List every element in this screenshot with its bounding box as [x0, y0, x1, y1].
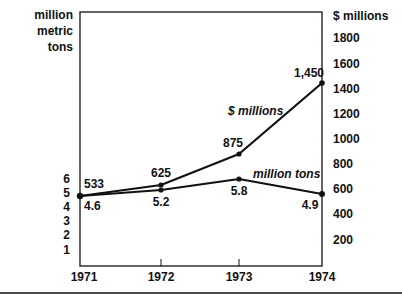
left-tick: 5 — [63, 186, 70, 200]
left-tick: 6 — [63, 172, 70, 186]
left-tick: 3 — [63, 214, 70, 228]
data-label-dollars-1971: 533 — [84, 177, 104, 191]
data-label-dollars-1972: 625 — [151, 166, 171, 180]
data-label-tons-1974: 4.9 — [302, 198, 319, 212]
left-tick: 1 — [63, 243, 70, 257]
right-tick: 1000 — [333, 132, 360, 146]
left-axis-title-line3: tons — [48, 40, 74, 54]
right-tick: 600 — [333, 182, 353, 196]
left-axis-ticks: 1 2 3 4 5 6 — [63, 172, 70, 257]
right-axis-ticks: 200 400 600 800 1000 1200 1400 1600 1800 — [333, 31, 360, 247]
data-label-tons-1971: 4.6 — [84, 199, 101, 213]
left-axis-title-line2: metric — [37, 24, 73, 38]
right-tick: 1200 — [333, 107, 360, 121]
series-tons-line — [80, 179, 322, 196]
right-tick: 1400 — [333, 82, 360, 96]
left-tick: 4 — [63, 200, 70, 214]
x-label: 1972 — [148, 270, 175, 284]
series-label-dollars: $ millions — [227, 104, 284, 118]
right-tick: 1600 — [333, 57, 360, 71]
dual-axis-line-chart: million metric tons 1 2 3 4 5 6 $ millio… — [0, 0, 402, 298]
right-axis-title: $ millions — [333, 9, 389, 23]
series-label-tons: million tons — [253, 167, 321, 181]
right-tick: 400 — [333, 207, 353, 221]
x-label: 1973 — [226, 270, 253, 284]
x-label: 1974 — [309, 270, 336, 284]
right-tick: 200 — [333, 233, 353, 247]
plot-frame — [80, 12, 322, 266]
right-tick: 1800 — [333, 31, 360, 45]
data-label-dollars-1974: 1,450 — [294, 66, 324, 80]
left-tick: 2 — [63, 228, 70, 242]
left-axis-title-line1: million — [34, 8, 73, 22]
data-label-tons-1972: 5.2 — [153, 195, 170, 209]
data-label-tons-1973: 5.8 — [231, 184, 248, 198]
x-axis-labels: 1971 1972 1973 1974 — [71, 270, 336, 284]
x-label: 1971 — [71, 270, 98, 284]
right-tick: 800 — [333, 157, 353, 171]
data-label-dollars-1973: 875 — [223, 136, 243, 150]
